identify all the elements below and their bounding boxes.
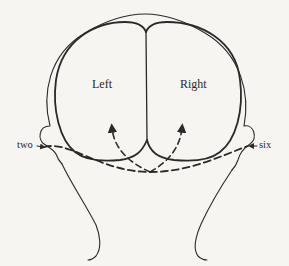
diagram-drawing bbox=[0, 0, 289, 266]
brain-diagram: Left Right two six bbox=[0, 0, 289, 266]
two-arrow bbox=[37, 146, 43, 147]
midline bbox=[146, 32, 147, 140]
left-hemisphere-outline bbox=[55, 22, 147, 161]
two-label: two bbox=[17, 140, 33, 151]
neck-right bbox=[195, 170, 232, 260]
right-hemisphere-outline bbox=[146, 22, 241, 161]
pathway-left-arrow bbox=[112, 128, 150, 172]
pathway-right-arrow bbox=[150, 128, 182, 172]
six-label: six bbox=[259, 140, 271, 151]
neck-left bbox=[62, 164, 100, 260]
left-hemisphere-label: Left bbox=[92, 78, 112, 90]
right-hemisphere-label: Right bbox=[180, 78, 207, 90]
pathway-two bbox=[44, 146, 248, 172]
